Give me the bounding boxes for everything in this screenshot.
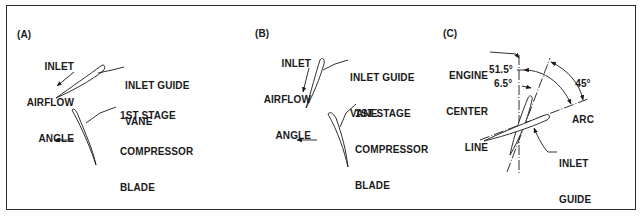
leader-blade-a xyxy=(86,107,116,123)
label-line: INLET GUIDE xyxy=(350,72,414,84)
label-line: AIRFLOW xyxy=(261,94,311,106)
label-line: INLET xyxy=(559,158,591,170)
label-line: COMPRESSOR xyxy=(120,146,193,158)
label-line: ANGLE xyxy=(261,130,311,142)
panel-c-tag: (C) xyxy=(443,28,457,40)
compressor-blade-a xyxy=(72,109,96,165)
label-line: ANGLE xyxy=(26,133,74,145)
panel-b-airflow-label: INLET AIRFLOW ANGLE xyxy=(261,34,311,154)
label-line: INLET xyxy=(26,61,74,73)
panel-c-centerline-label: ENGINE CENTER LINE xyxy=(440,46,488,166)
compressor-blade-b xyxy=(328,113,348,167)
panel-b-blade-label: 1ST STAGE COMPRESSOR BLADE xyxy=(355,84,428,204)
leader-igv-c xyxy=(534,128,557,152)
label-line: 1ST STAGE xyxy=(120,110,193,122)
panel-a-blade-label: 1ST STAGE COMPRESSOR BLADE xyxy=(120,86,193,206)
angle-51-5-label: 51.5° xyxy=(489,64,513,76)
label-line: ARC xyxy=(570,114,596,126)
label-line: CENTER xyxy=(440,106,488,118)
label-line: ENGINE xyxy=(440,70,488,82)
leader-centerline xyxy=(490,52,519,58)
panel-a-airflow-label: INLET AIRFLOW ANGLE xyxy=(26,37,74,157)
label-line: AIRFLOW xyxy=(26,97,74,109)
diagram-drawing xyxy=(0,0,642,220)
label-line: 1ST STAGE xyxy=(355,108,428,120)
reference-line-6-5 xyxy=(507,58,550,172)
label-line: GUIDE xyxy=(559,194,591,206)
panel-c-igv-label: INLET GUIDE VANE xyxy=(559,134,591,220)
label-line: LINE xyxy=(440,142,488,154)
label-line: 45° xyxy=(570,78,596,90)
angle-6-5-label: 6.5° xyxy=(494,78,512,90)
arc-45-label: 45° ARC xyxy=(570,54,596,138)
label-line: BLADE xyxy=(120,182,193,194)
label-line: BLADE xyxy=(355,180,428,192)
leader-igv-b xyxy=(323,60,348,70)
label-line: COMPRESSOR xyxy=(355,144,428,156)
arc-6-5 xyxy=(522,86,531,88)
label-line: INLET xyxy=(261,58,311,70)
